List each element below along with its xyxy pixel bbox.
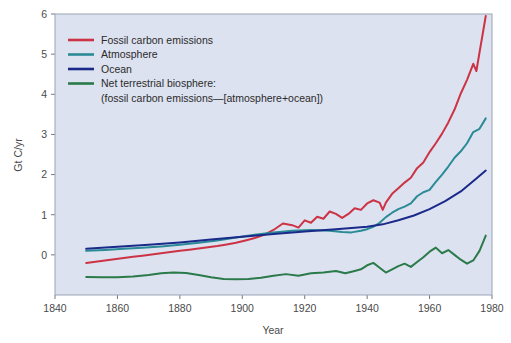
x-axis-title: Year [262, 324, 284, 336]
x-tick-label: 1860 [106, 302, 130, 314]
y-tick-label: 1 [41, 209, 47, 221]
chart-svg: 0123456 18401860188019001920194019601980… [0, 0, 511, 343]
x-tick-label: 1900 [231, 302, 255, 314]
y-tick-label: 2 [41, 168, 47, 180]
legend-label: Ocean [101, 63, 132, 75]
y-tick-label: 4 [41, 88, 47, 100]
x-tick-label: 1920 [293, 302, 317, 314]
y-tick-label: 5 [41, 48, 47, 60]
legend-label: Atmosphere [101, 48, 158, 60]
x-tick-label: 1880 [168, 302, 192, 314]
y-tick-label: 3 [41, 128, 47, 140]
x-tick-label: 1980 [480, 302, 504, 314]
legend-sublabel: (fossil carbon emissions—[atmosphere+oce… [101, 92, 323, 104]
x-tick-label: 1840 [43, 302, 67, 314]
x-tick-label: 1940 [355, 302, 379, 314]
legend-label: Net terrestrial biosphere: [101, 77, 216, 89]
y-axis-title: Gt C/yr [12, 138, 24, 172]
chart-figure: 0123456 18401860188019001920194019601980… [0, 0, 511, 343]
legend-label: Fossil carbon emissions [101, 34, 213, 46]
y-tick-label: 0 [41, 249, 47, 261]
y-tick-label: 6 [41, 8, 47, 20]
x-tick-label: 1960 [418, 302, 442, 314]
